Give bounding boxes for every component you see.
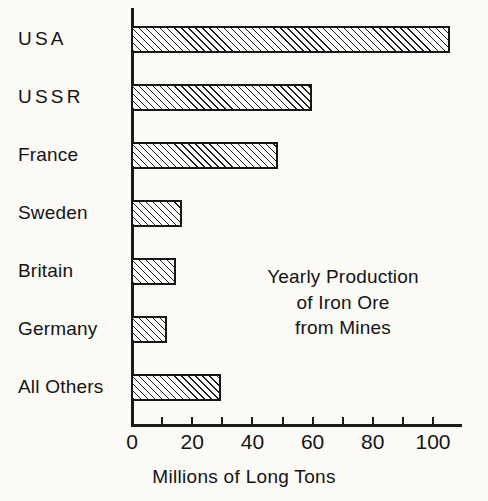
- bar-sweden: [131, 200, 182, 227]
- annotation-line-2: of Iron Ore: [228, 290, 458, 316]
- category-label-germany: Germany: [18, 318, 138, 340]
- tick-mark-30: [221, 417, 223, 425]
- tick-mark-10: [161, 417, 163, 425]
- tick-label-80: 80: [361, 430, 384, 454]
- bar-france: [131, 142, 278, 169]
- annotation-line-1: Yearly Production: [228, 264, 458, 290]
- chart-annotation: Yearly Production of Iron Ore from Mines: [228, 264, 458, 341]
- tick-mark-50: [282, 417, 284, 425]
- category-label-usa: USA: [18, 28, 138, 50]
- category-label-ussr: USSR: [18, 86, 138, 108]
- category-label-britain: Britain: [18, 260, 138, 282]
- tick-label-100: 100: [415, 430, 450, 454]
- bar-ussr: [131, 84, 312, 111]
- bar-rect: [131, 142, 278, 169]
- x-axis-title: Millions of Long Tons: [0, 466, 488, 488]
- tick-label-20: 20: [181, 430, 204, 454]
- tick-mark-100: [432, 417, 434, 425]
- tick-mark-40: [251, 417, 253, 425]
- tick-mark-70: [342, 417, 344, 425]
- category-label-all-others: All Others: [18, 376, 138, 398]
- bar-all-others: [131, 374, 221, 401]
- tick-mark-20: [191, 417, 193, 425]
- bar-germany: [131, 316, 167, 343]
- bar-rect: [131, 84, 312, 111]
- tick-mark-80: [372, 417, 374, 425]
- tick-mark-90: [402, 417, 404, 425]
- tick-label-60: 60: [301, 430, 324, 454]
- bar-usa: [131, 26, 450, 53]
- tick-label-0: 0: [126, 430, 138, 454]
- tick-mark-60: [312, 417, 314, 425]
- bar-chart: USAUSSRFranceSwedenBritainGermanyAll Oth…: [0, 0, 488, 501]
- category-label-sweden: Sweden: [18, 202, 138, 224]
- tick-label-40: 40: [241, 430, 264, 454]
- tick-mark-0: [131, 417, 133, 425]
- bar-rect: [131, 26, 450, 53]
- bar-rect: [131, 200, 182, 227]
- bar-rect: [131, 374, 221, 401]
- bar-britain: [131, 258, 176, 285]
- bar-rect: [131, 316, 167, 343]
- bar-rect: [131, 258, 176, 285]
- annotation-line-3: from Mines: [228, 315, 458, 341]
- category-label-france: France: [18, 144, 138, 166]
